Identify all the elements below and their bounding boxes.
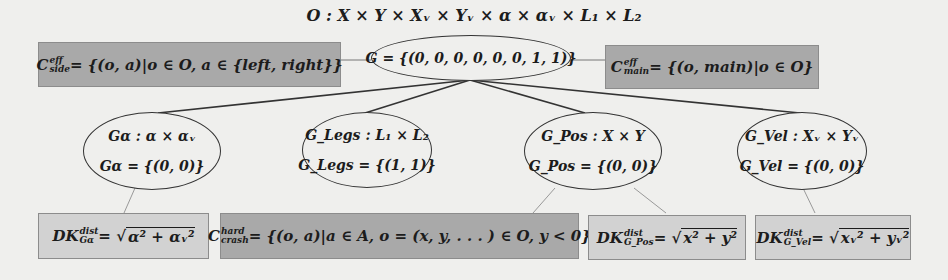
- crash-constraint-formula: = {(o, a)|a ∈ A, o = (x, y, . . . ) ∈ O,…: [249, 227, 591, 245]
- subgoal-ellipse-pos: G_Pos : X × Y G_Pos = {(0, 0)}: [524, 112, 662, 190]
- subgoal-ellipse-alpha: Gα : α × αᵥ Gα = {(0, 0)}: [83, 112, 221, 190]
- root-goal-ellipse: G = {(0, 0, 0, 0, 0, 0, 1, 1)}: [371, 35, 571, 81]
- edge-gpos-dk: [634, 188, 666, 213]
- dk-vel-radicand: xᵥ² + yᵥ²: [839, 228, 910, 247]
- dk-pos-sub: G_Pos: [624, 238, 654, 247]
- dk-pos-box: DK distG_Pos = √x² + y²: [588, 215, 746, 260]
- dk-vel-prefix: DK: [757, 229, 783, 247]
- dk-alpha-prefix: DK: [52, 227, 78, 245]
- dk-vel-eq: = √: [811, 229, 839, 247]
- dk-alpha-box: DK distGα = √α² + αᵥ²: [38, 213, 209, 259]
- edge-gvel-dk: [803, 188, 815, 213]
- crash-constraint-sub: crash: [221, 236, 249, 245]
- subgoal-vel-set: G_Vel = {(0, 0)}: [740, 151, 865, 181]
- subgoal-pos-space: G_Pos : X × Y: [541, 121, 645, 151]
- dk-pos-radicand: x² + y²: [681, 228, 737, 247]
- dk-alpha-radicand: α² + αᵥ²: [126, 227, 195, 246]
- dk-alpha-eq: = √: [98, 227, 126, 245]
- side-constraint-sub: side: [49, 65, 70, 74]
- subgoal-legs-space: G_Legs : L₁ × L₂: [305, 120, 429, 150]
- main-constraint-formula: = {(o, main)|o ∈ O}: [649, 58, 813, 76]
- dk-vel-sub: G_Vel: [784, 238, 812, 247]
- main-constraint-box: C effmain = {(o, main)|o ∈ O}: [605, 45, 819, 89]
- subgoal-ellipse-vel: G_Vel : Xᵥ × Yᵥ G_Vel = {(0, 0)}: [737, 112, 867, 190]
- side-constraint-formula: = {(o, a)|o ∈ O, a ∈ {left, right}}: [70, 56, 343, 74]
- subgoal-alpha-space: Gα : α × αᵥ: [108, 121, 196, 151]
- subgoal-ellipse-legs: G_Legs : L₁ × L₂ G_Legs = {(1, 1)}: [302, 112, 432, 188]
- observation-space-title: O : X × Y × Xᵥ × Yᵥ × α × αᵥ × L₁ × L₂: [0, 6, 948, 25]
- main-constraint-sub: main: [624, 67, 649, 76]
- dk-pos-prefix: DK: [597, 229, 623, 247]
- crash-constraint-symbol: C: [208, 227, 220, 245]
- edge-gpos-crash: [533, 188, 555, 213]
- subgoal-alpha-set: Gα = {(0, 0)}: [100, 151, 205, 181]
- side-constraint-box: C effside = {(o, a)|o ∈ O, a ∈ {left, ri…: [38, 42, 341, 87]
- edge-galpha-dk: [124, 188, 135, 213]
- dk-alpha-sub: Gα: [79, 236, 98, 245]
- subgoal-legs-set: G_Legs = {(1, 1)}: [298, 150, 435, 180]
- root-goal-label: G = {(0, 0, 0, 0, 0, 0, 1, 1)}: [366, 50, 577, 66]
- main-constraint-symbol: C: [611, 58, 623, 76]
- subgoal-vel-space: G_Vel : Xᵥ × Yᵥ: [745, 121, 859, 151]
- subgoal-pos-set: G_Pos = {(0, 0)}: [529, 151, 657, 181]
- crash-constraint-box: C hardcrash = {(o, a)|a ∈ A, o = (x, y, …: [220, 213, 579, 259]
- side-constraint-symbol: C: [36, 56, 48, 74]
- dk-pos-eq: = √: [654, 229, 682, 247]
- dk-vel-box: DK distG_Vel = √xᵥ² + yᵥ²: [755, 215, 911, 260]
